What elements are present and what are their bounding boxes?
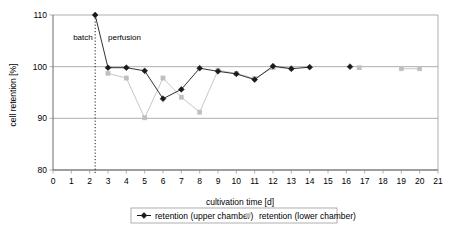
x-tick-label-0: 0 <box>51 176 56 186</box>
phase-annotations: batchperfusion <box>73 33 141 42</box>
x-tick-label-11: 11 <box>250 176 259 186</box>
data-point-11 <box>357 66 361 70</box>
data-point-0 <box>106 71 110 75</box>
x-tick-label-1: 1 <box>69 176 74 186</box>
x-tick-label-3: 3 <box>106 176 111 186</box>
x-tick-label-15: 15 <box>323 176 333 186</box>
data-point-5 <box>198 110 202 114</box>
cell-retention-chart: 0123456789101112131415161718192021 80901… <box>0 0 467 240</box>
y-tick-label-100: 100 <box>33 62 47 72</box>
y-axis-title: cell retention [%] <box>8 64 18 127</box>
annotation-perfusion: perfusion <box>108 33 141 42</box>
data-point-1 <box>124 76 128 80</box>
data-point-12 <box>399 67 403 71</box>
annotation-batch: batch <box>73 33 93 42</box>
y-tick-label-110: 110 <box>33 10 47 20</box>
x-tick-label-18: 18 <box>378 176 388 186</box>
data-point-4 <box>179 95 183 99</box>
x-axis-title: cultivation time [d] <box>206 197 274 207</box>
x-tick-label-16: 16 <box>342 176 352 186</box>
x-tick-label-4: 4 <box>124 176 129 186</box>
data-point-3 <box>161 76 165 80</box>
legend-item-upper-chamber[interactable]: retention (upper chamber) <box>137 211 253 221</box>
x-tick-label-21: 21 <box>433 176 443 186</box>
data-point-2 <box>143 116 147 120</box>
legend-marker-square <box>246 213 250 217</box>
data-point-13 <box>418 67 422 71</box>
x-tick-label-2: 2 <box>87 176 92 186</box>
x-tick-label-14: 14 <box>305 176 315 186</box>
x-tick-label-13: 13 <box>287 176 297 186</box>
x-tick-label-8: 8 <box>197 176 202 186</box>
x-tick-label-20: 20 <box>415 176 425 186</box>
x-tick-label-12: 12 <box>268 176 278 186</box>
x-tick-label-7: 7 <box>179 176 184 186</box>
x-tick-label-9: 9 <box>216 176 221 186</box>
y-tick-label-80: 80 <box>38 165 48 175</box>
x-tick-label-19: 19 <box>397 176 407 186</box>
x-tick-label-5: 5 <box>142 176 147 186</box>
x-tick-label-10: 10 <box>232 176 242 186</box>
y-tick-label-90: 90 <box>38 113 48 123</box>
legend-label: retention (upper chamber) <box>155 211 253 221</box>
chart-legend: retention (upper chamber)retention (lowe… <box>131 208 356 223</box>
legend-item-lower-chamber[interactable]: retention (lower chamber) <box>246 211 356 221</box>
chart-container: 0123456789101112131415161718192021 80901… <box>0 0 467 240</box>
legend-label: retention (lower chamber) <box>259 211 356 221</box>
x-tick-label-17: 17 <box>360 176 370 186</box>
x-tick-label-6: 6 <box>161 176 166 186</box>
